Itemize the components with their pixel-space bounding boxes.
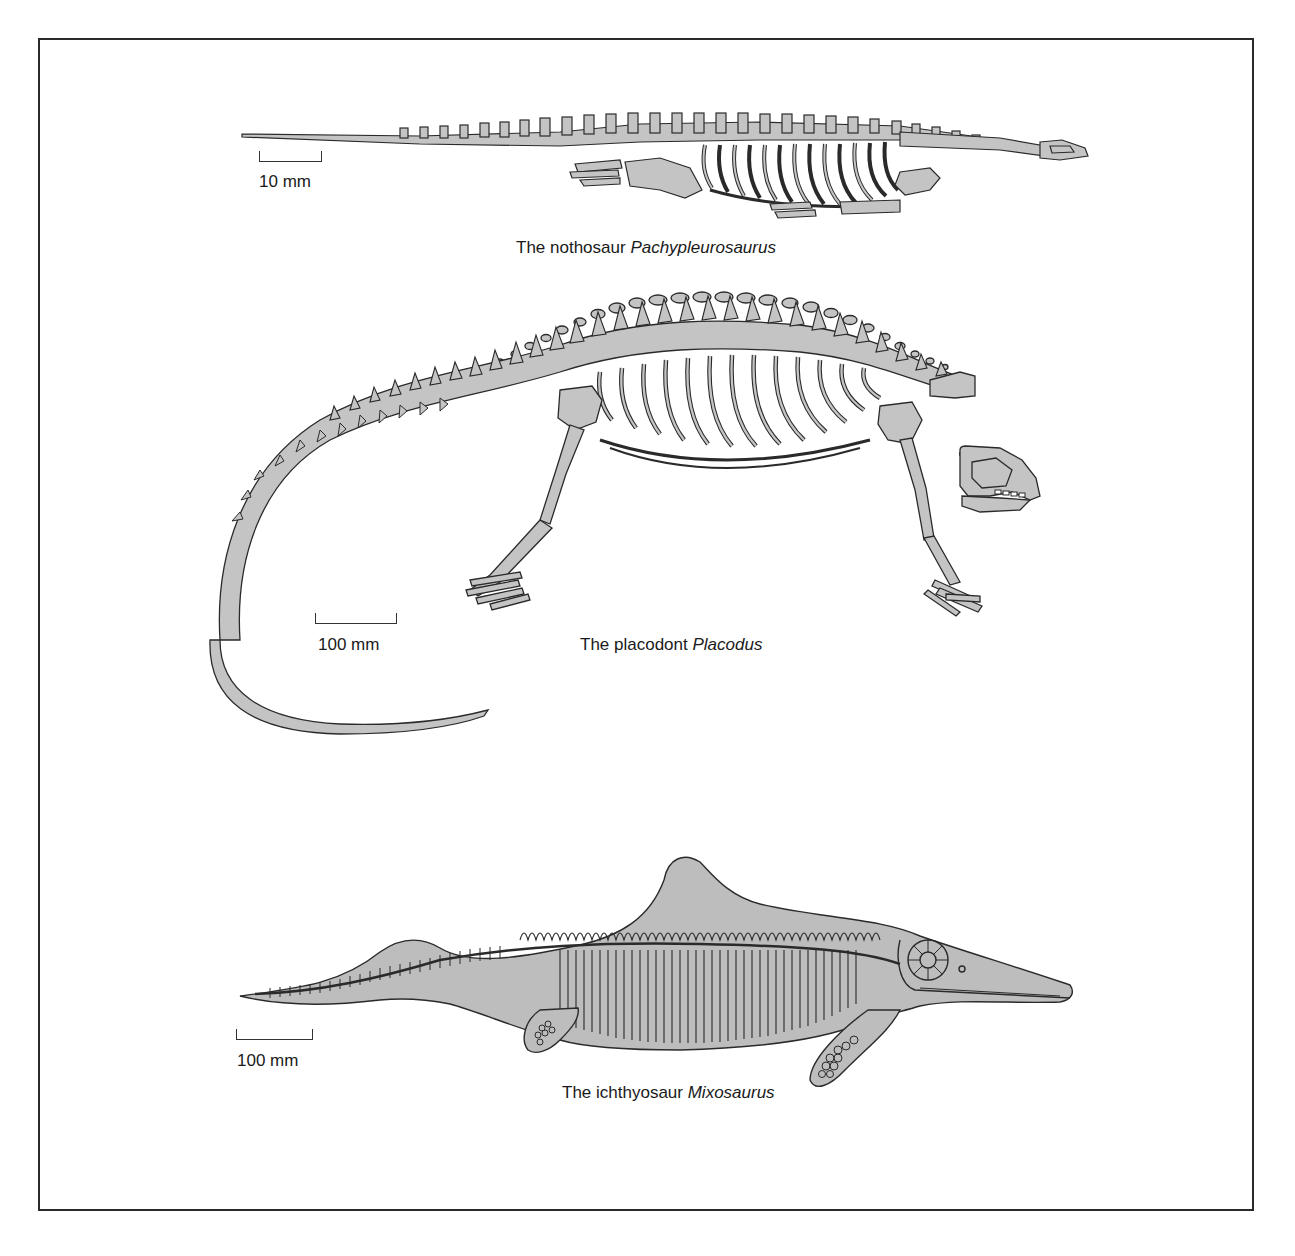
caption-ichthyosaur: The ichthyosaur Mixosaurus <box>562 1083 775 1103</box>
scale-label-ichthyosaur: 100 mm <box>237 1051 298 1071</box>
scale-bar-placodont <box>315 613 397 624</box>
scale-label-nothosaur: 10 mm <box>259 172 311 192</box>
caption-genus: Placodus <box>692 635 762 654</box>
placodont-skeleton <box>210 292 1040 734</box>
figure-artwork <box>0 0 1295 1256</box>
caption-prefix: The nothosaur <box>516 238 626 257</box>
caption-genus: Mixosaurus <box>688 1083 775 1102</box>
caption-genus: Pachypleurosaurus <box>630 238 776 257</box>
hind-foot <box>466 572 530 610</box>
fore-foot <box>924 580 982 616</box>
scale-label-placodont: 100 mm <box>318 635 379 655</box>
caption-nothosaur: The nothosaur Pachypleurosaurus <box>516 238 776 258</box>
sclerotic-ring <box>908 940 948 980</box>
nothosaur-skeleton <box>242 113 1088 218</box>
caption-placodont: The placodont Placodus <box>580 635 762 655</box>
ribs <box>599 355 880 446</box>
scale-bar-ichthyosaur <box>236 1029 313 1040</box>
caption-prefix: The placodont <box>580 635 688 654</box>
ichthyosaur-skeleton <box>240 857 1072 1086</box>
scale-bar-nothosaur <box>259 151 322 162</box>
caption-prefix: The ichthyosaur <box>562 1083 683 1102</box>
